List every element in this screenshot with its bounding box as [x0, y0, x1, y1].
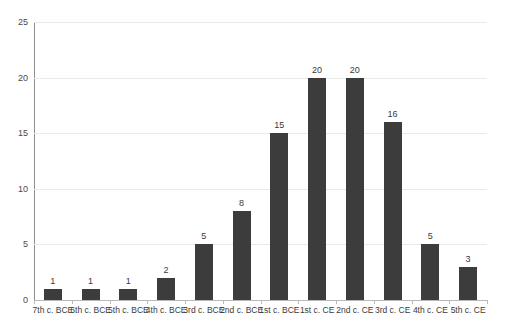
plot-area: 1112581520201653: [34, 22, 487, 300]
bar-value-label: 2: [164, 265, 169, 275]
bar-slot: 2: [147, 22, 185, 300]
bar[interactable]: [82, 289, 100, 300]
bar[interactable]: [346, 78, 364, 300]
x-axis-tick: [72, 300, 73, 304]
bar-series: 1112581520201653: [34, 22, 487, 300]
bar[interactable]: [157, 278, 175, 300]
x-axis-tick-label: 1st c. CE: [300, 305, 334, 315]
bar-value-label: 20: [350, 65, 360, 75]
x-axis-tick-label: 5th c. CE: [451, 305, 486, 315]
bar[interactable]: [308, 78, 326, 300]
bar-slot: 16: [374, 22, 412, 300]
bar[interactable]: [195, 244, 213, 300]
x-axis-tick: [34, 300, 35, 304]
x-axis-tick: [449, 300, 450, 304]
x-axis-tick-label: 2nd c. CE: [336, 305, 373, 315]
x-axis-tick: [298, 300, 299, 304]
x-axis-tick: [261, 300, 262, 304]
bar-slot: 5: [412, 22, 450, 300]
x-axis-tick-label: 3rd c. BCE: [183, 305, 224, 315]
y-axis-tick-label: 15: [18, 128, 28, 138]
x-axis-tick: [147, 300, 148, 304]
bar-value-label: 5: [428, 231, 433, 241]
bar-value-label: 3: [466, 254, 471, 264]
x-axis-tick-label: 4th c. CE: [413, 305, 448, 315]
bar-value-label: 1: [50, 276, 55, 286]
bar[interactable]: [119, 289, 137, 300]
x-axis-tick: [336, 300, 337, 304]
bar-slot: 5: [185, 22, 223, 300]
bar-slot: 20: [336, 22, 374, 300]
bar-slot: 3: [449, 22, 487, 300]
x-axis-tick-label: 4th c. BCE: [146, 305, 187, 315]
bar-value-label: 20: [312, 65, 322, 75]
bar-value-label: 8: [239, 198, 244, 208]
bar-slot: 1: [110, 22, 148, 300]
x-axis-tick: [110, 300, 111, 304]
bar-value-label: 1: [88, 276, 93, 286]
y-axis-tick-label: 25: [18, 17, 28, 27]
bar-slot: 1: [72, 22, 110, 300]
x-axis-tick-label: 6th c. BCE: [70, 305, 111, 315]
y-axis-tick-label: 0: [23, 295, 28, 305]
bar[interactable]: [421, 244, 439, 300]
bar-chart: 0510152025 1112581520201653 7th c. BCE6t…: [0, 0, 505, 330]
bar[interactable]: [270, 133, 288, 300]
x-axis-tick-label: 2nd c. BCE: [220, 305, 263, 315]
bar[interactable]: [459, 267, 477, 300]
x-axis-tick: [185, 300, 186, 304]
x-axis-tick-label: 7th c. BCE: [33, 305, 74, 315]
x-axis-tick: [223, 300, 224, 304]
bar-value-label: 5: [201, 231, 206, 241]
y-axis-tick-label: 10: [18, 184, 28, 194]
x-axis-tick: [374, 300, 375, 304]
bar[interactable]: [233, 211, 251, 300]
bar-slot: 8: [223, 22, 261, 300]
x-axis-tick-label: 5th c. BCE: [108, 305, 149, 315]
y-axis-tick-label: 20: [18, 73, 28, 83]
y-axis-tick-label: 5: [23, 239, 28, 249]
x-axis-tick: [487, 300, 488, 304]
bar-value-label: 16: [388, 109, 398, 119]
bar[interactable]: [384, 122, 402, 300]
bar-value-label: 1: [126, 276, 131, 286]
bar[interactable]: [44, 289, 62, 300]
x-axis-tick-label: 1st c. BCE: [259, 305, 299, 315]
y-axis-tick-labels: 0510152025: [0, 0, 28, 330]
bar-slot: 15: [261, 22, 299, 300]
bar-slot: 1: [34, 22, 72, 300]
x-axis-tick-label: 3rd c. CE: [375, 305, 410, 315]
x-axis-tick: [412, 300, 413, 304]
bar-slot: 20: [298, 22, 336, 300]
bar-value-label: 15: [274, 120, 284, 130]
